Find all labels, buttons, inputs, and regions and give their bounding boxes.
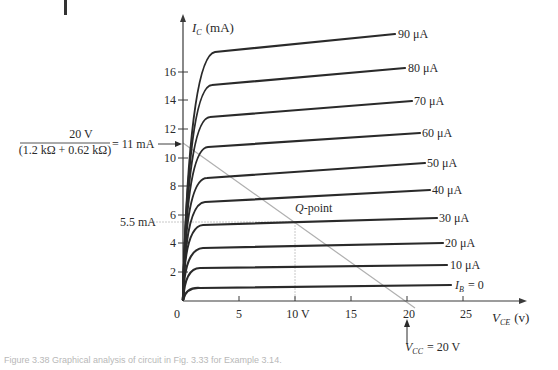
transistor-characteristics-chart: 2 4 6 8 10 12 14 16 0 5 10 V 15 20 25 IC… — [0, 0, 558, 370]
x-ticks — [239, 296, 463, 301]
svg-text:(1.2 kΩ + 0.62 kΩ): (1.2 kΩ + 0.62 kΩ) — [19, 143, 112, 157]
arrow-right-icon — [175, 141, 182, 147]
svg-text:12: 12 — [164, 122, 176, 136]
svg-text:15: 15 — [345, 307, 357, 321]
svg-text:0: 0 — [174, 307, 180, 321]
svg-text:14: 14 — [164, 93, 176, 107]
svg-text:2: 2 — [170, 265, 176, 279]
svg-text:40 μA: 40 μA — [432, 183, 462, 197]
svg-text:80 μA: 80 μA — [408, 61, 438, 75]
page-margin-mark — [64, 0, 67, 15]
svg-text:6: 6 — [170, 208, 176, 222]
svg-text:20 μA: 20 μA — [445, 236, 475, 250]
ib-zero-label: IB= 0 — [454, 278, 484, 294]
x-axis-arrow-icon — [519, 298, 527, 304]
curve-labels: 90 μA 80 μA 70 μA 60 μA 50 μA 40 μA 30 μ… — [398, 27, 480, 272]
svg-text:60 μA: 60 μA — [422, 126, 452, 140]
svg-text:10 μA: 10 μA — [450, 258, 480, 272]
y-axis-arrow-icon — [180, 14, 186, 22]
svg-text:90 μA: 90 μA — [398, 27, 428, 41]
y-axis-title: IC(mA) — [191, 20, 234, 37]
x-axis-title: VCE(v) — [492, 310, 529, 327]
svg-text:5: 5 — [236, 307, 242, 321]
icq-label: 5.5 mA — [120, 215, 156, 229]
svg-text:70 μA: 70 μA — [414, 94, 444, 108]
curve-ib-10 — [183, 265, 447, 300]
svg-text:20 V: 20 V — [69, 127, 93, 141]
svg-text:4: 4 — [170, 236, 176, 250]
curve-ib-60 — [183, 133, 420, 300]
svg-text:20: 20 — [403, 307, 415, 321]
y-tick-labels: 2 4 6 8 10 12 14 16 — [164, 65, 176, 279]
q-point-guides — [150, 222, 295, 301]
svg-text:10 V: 10 V — [286, 307, 310, 321]
curve-ib-20 — [183, 243, 443, 300]
svg-text:VCC= 20 V: VCC= 20 V — [405, 340, 461, 356]
figure-caption: Figure 3.38 Graphical analysis of circui… — [4, 355, 282, 365]
vcc-annotation: VCC= 20 V — [404, 319, 461, 356]
curve-ib-0 — [183, 285, 451, 300]
curve-ib-50 — [183, 163, 425, 300]
svg-text:= 11 mA: = 11 mA — [112, 137, 155, 151]
svg-text:8: 8 — [170, 179, 176, 193]
svg-text:16: 16 — [164, 65, 176, 79]
svg-text:30 μA: 30 μA — [439, 211, 469, 225]
x-tick-labels: 0 5 10 V 15 20 25 — [174, 307, 472, 321]
svg-text:25: 25 — [460, 307, 472, 321]
q-point-label: Q-point — [295, 201, 333, 215]
svg-text:10: 10 — [164, 151, 176, 165]
svg-text:50 μA: 50 μA — [427, 156, 457, 170]
ic-sat-annotation: 20 V (1.2 kΩ + 0.62 kΩ) = 11 mA — [19, 127, 182, 157]
